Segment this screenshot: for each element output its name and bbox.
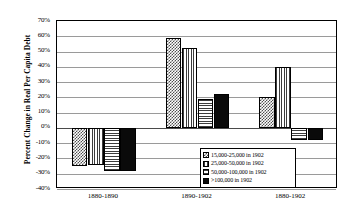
legend-label: 50,000-100,000 in 1902 — [211, 169, 266, 176]
y-tick-label: -40% — [2, 185, 50, 192]
x-tick-label: 1880-1890 — [56, 192, 150, 200]
legend-item[interactable]: 50,000-100,000 in 1902 — [203, 168, 293, 177]
y-tick-label: 0% — [2, 123, 50, 130]
y-tick-label: -10% — [2, 139, 50, 146]
x-tick-label: 1880-1902 — [243, 192, 337, 200]
legend-swatch-icon — [203, 169, 209, 175]
bar-chart: Percent Change in Real Per Capita Debt 7… — [0, 0, 356, 223]
y-tick-label: 70% — [2, 17, 50, 24]
legend-label: 15,000-25,000 in 1902 — [211, 152, 264, 159]
y-tick-label: 60% — [2, 32, 50, 39]
gridline--40 — [57, 189, 336, 190]
legend-label: 25,000-50,000 in 1902 — [211, 160, 264, 167]
y-tick-label: 20% — [2, 93, 50, 100]
y-tick-label: -30% — [2, 169, 50, 176]
legend-swatch-icon — [203, 178, 209, 184]
legend-item[interactable]: 25,000-50,000 in 1902 — [203, 160, 293, 169]
legend-label: >100,000 in 1902 — [211, 177, 252, 184]
y-tick-label: 10% — [2, 108, 50, 115]
legend-swatch-icon — [203, 161, 209, 167]
y-tick-label: -20% — [2, 154, 50, 161]
x-tick-label: 1890-1902 — [150, 192, 244, 200]
y-tick-label: 40% — [2, 62, 50, 69]
y-tick-label: 50% — [2, 47, 50, 54]
legend-item[interactable]: 15,000-25,000 in 1902 — [203, 151, 293, 160]
chart-legend: 15,000-25,000 in 190225,000-50,000 in 19… — [200, 148, 296, 188]
legend-item[interactable]: >100,000 in 1902 — [203, 177, 293, 186]
legend-swatch-icon — [203, 152, 209, 158]
y-tick-label: 30% — [2, 78, 50, 85]
y-axis-ticks: 70%60%50%40%30%20%10%0%-10%-20%-30%-40% — [0, 20, 356, 188]
x-axis-labels: 1880-18901890-19021880-1902 — [56, 192, 337, 206]
